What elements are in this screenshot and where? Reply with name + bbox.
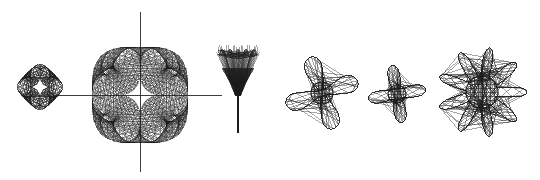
figure-plate	[0, 0, 540, 180]
figure-plate-canvas	[0, 0, 540, 180]
